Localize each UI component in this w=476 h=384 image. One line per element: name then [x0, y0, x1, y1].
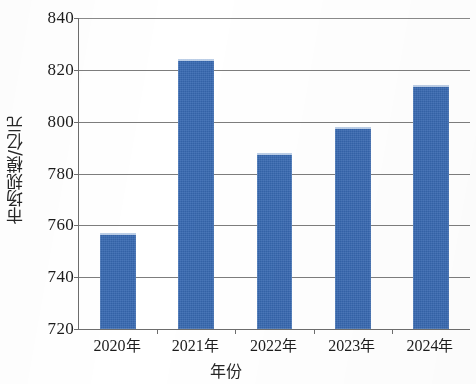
- bar-chart-figure: 市场规模/亿元 720740760780800820840 2020年2021年…: [0, 0, 476, 384]
- bar-top-highlight: [100, 233, 136, 235]
- x-tick-year: 2020: [94, 337, 126, 354]
- bar-texture: [100, 233, 136, 329]
- gridline-800: [79, 122, 470, 123]
- x-tick-label-2021年: 2021年: [172, 334, 219, 355]
- bar-top-highlight: [178, 59, 214, 61]
- bar-top-highlight: [257, 153, 293, 155]
- gridline-840: [79, 18, 470, 19]
- y-tick-mark-800: [74, 122, 79, 123]
- bar-texture: [335, 127, 371, 329]
- bar-texture: [178, 59, 214, 329]
- y-tick-mark-720: [74, 329, 79, 330]
- bar-2021年[interactable]: [178, 59, 214, 329]
- bar-texture: [413, 85, 449, 329]
- y-tick-mark-820: [74, 70, 79, 71]
- y-tick-label-840: 840: [28, 8, 74, 28]
- x-axis-title-text: 年份: [210, 362, 242, 381]
- x-tick-label-2024年: 2024年: [406, 334, 453, 355]
- x-tick-unit: 年: [360, 337, 375, 355]
- x-tick-label-2023年: 2023年: [328, 334, 375, 355]
- y-tick-label-740: 740: [28, 267, 74, 287]
- x-tick-year: 2024: [406, 337, 438, 354]
- x-tick-unit: 年: [126, 337, 141, 355]
- y-tick-label-820: 820: [28, 60, 74, 80]
- y-tick-mark-760: [74, 225, 79, 226]
- bar-2024年[interactable]: [413, 85, 449, 329]
- y-tick-mark-740: [74, 277, 79, 278]
- x-tick-year: 2022: [250, 337, 282, 354]
- y-tick-label-720: 720: [28, 319, 74, 339]
- y-tick-label-760: 760: [28, 215, 74, 235]
- bar-top-highlight: [335, 127, 371, 129]
- bar-2022年[interactable]: [257, 153, 293, 329]
- y-tick-label-800: 800: [28, 112, 74, 132]
- plot-area: [78, 18, 470, 330]
- x-tick-label-2020年: 2020年: [94, 334, 141, 355]
- x-tick-unit: 年: [438, 337, 453, 355]
- x-tick-year: 2023: [328, 337, 360, 354]
- y-tick-mark-840: [74, 18, 79, 19]
- y-tick-label-780: 780: [28, 164, 74, 184]
- bar-2020年[interactable]: [100, 233, 136, 329]
- x-tick-unit: 年: [204, 337, 219, 355]
- x-tick-year: 2021: [172, 337, 204, 354]
- x-axis-tick-labels: 2020年2021年2022年2023年2024年: [78, 334, 470, 358]
- y-tick-mark-780: [74, 174, 79, 175]
- bar-top-highlight: [413, 85, 449, 87]
- bar-texture: [257, 153, 293, 329]
- y-axis-tick-labels: 720740760780800820840: [24, 0, 74, 384]
- gridline-820: [79, 70, 470, 71]
- x-tick-unit: 年: [282, 337, 297, 355]
- y-axis-title-text: 市场规模/亿元: [7, 116, 24, 224]
- x-axis-title: 年份: [0, 358, 476, 382]
- bar-2023年[interactable]: [335, 127, 371, 329]
- x-tick-label-2022年: 2022年: [250, 334, 297, 355]
